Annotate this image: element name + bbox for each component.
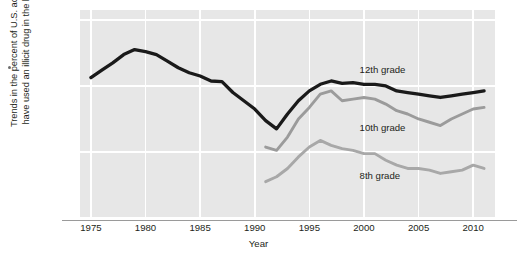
x-tick-label-1990: 1990	[233, 222, 277, 233]
x-tick-label-1980: 1980	[124, 222, 168, 233]
x-tick-label-1985: 1985	[178, 222, 222, 233]
series-label-10th-grade: 10th grade	[360, 122, 406, 133]
x-tick-label-2010: 2010	[451, 222, 495, 233]
series-label-12th-grade: 12th grade	[360, 64, 406, 75]
x-axis-title: Year	[0, 238, 517, 249]
x-tick-label-2000: 2000	[342, 222, 386, 233]
series-lines	[80, 10, 495, 218]
chart-figure: Trends in the percent of U.S. adolescent…	[0, 0, 517, 271]
x-tick-label-1995: 1995	[287, 222, 331, 233]
x-tick-label-2005: 2005	[397, 222, 441, 233]
y-axis-title: Trends in the percent of U.S. adolescent…	[8, 0, 44, 136]
x-axis-line	[62, 220, 517, 221]
series-label-8th-grade: 8th grade	[360, 170, 401, 181]
x-tick-label-1975: 1975	[69, 222, 113, 233]
series-line-12th-grade	[91, 50, 484, 129]
y-axis-title-line-2: have used an illicit drug in the last 12…	[20, 0, 32, 136]
edge-speck-artifact	[8, 66, 11, 69]
